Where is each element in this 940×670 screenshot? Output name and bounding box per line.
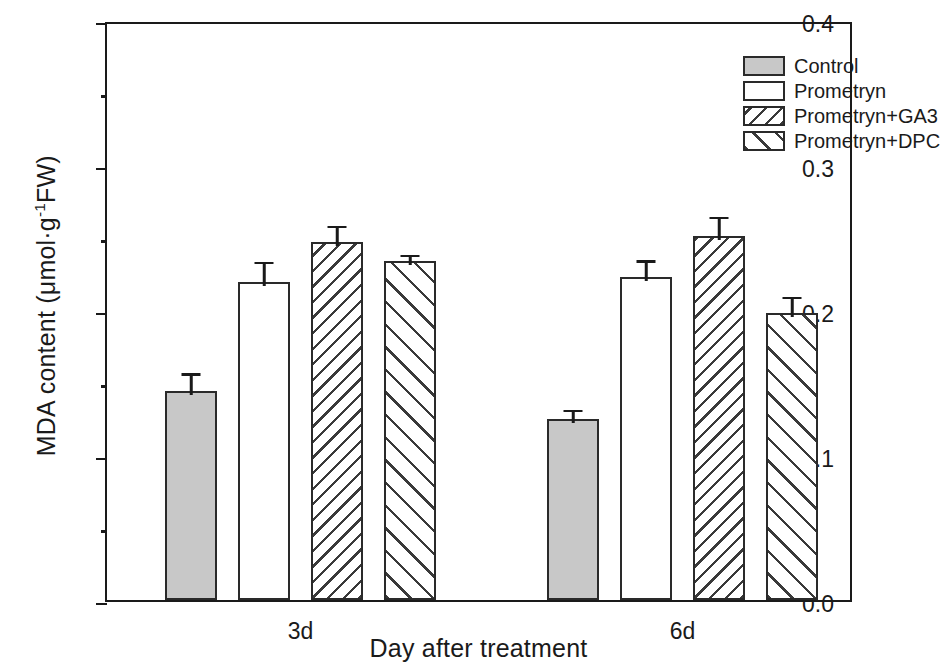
legend-swatch — [743, 81, 785, 101]
bar — [766, 313, 818, 600]
y-axis-major-tick — [96, 603, 107, 606]
error-bar-cap — [564, 410, 583, 413]
error-bar-stem — [718, 217, 721, 240]
error-bar-stem — [336, 226, 339, 246]
y-axis-minor-tick — [101, 240, 107, 243]
legend-label: Prometryn+DPC — [794, 131, 940, 151]
error-bar-stem — [791, 297, 794, 317]
y-axis-minor-tick — [101, 95, 107, 98]
y-axis-major-tick — [96, 313, 107, 316]
legend-label: Control — [794, 56, 858, 76]
bar — [311, 242, 363, 600]
error-bar-cap — [182, 373, 201, 376]
y-axis-major-tick — [96, 23, 107, 26]
y-axis-title-superscript: -1 — [31, 203, 48, 217]
legend-item: Prometryn+GA3 — [743, 103, 940, 128]
error-bar-cap — [710, 217, 729, 220]
legend-swatch — [743, 106, 785, 126]
y-axis-tick-label: 0.4 — [802, 11, 834, 38]
y-axis-minor-tick — [101, 530, 107, 533]
error-bar-cap — [401, 255, 420, 258]
y-axis-title-prefix: MDA content (μmol·g — [32, 217, 60, 456]
y-axis-major-tick — [96, 458, 107, 461]
bar — [165, 391, 217, 600]
error-bar-stem — [263, 262, 266, 287]
y-axis-tick-label: 0.3 — [802, 156, 834, 183]
legend-item: Prometryn — [743, 78, 940, 103]
legend-swatch — [743, 56, 785, 76]
legend-swatch — [743, 131, 785, 151]
error-bar-cap — [637, 260, 656, 263]
error-bar-cap — [328, 226, 347, 229]
error-bar-cap — [783, 297, 802, 300]
error-bar-stem — [190, 373, 193, 395]
legend-item: Prometryn+DPC — [743, 128, 940, 153]
bar — [620, 277, 672, 600]
bar — [693, 236, 745, 600]
x-axis-title: Day after treatment — [105, 634, 852, 663]
error-bar-cap — [255, 262, 274, 265]
bar — [238, 282, 290, 600]
y-axis-title-suffix: FW) — [32, 155, 60, 203]
legend-item: Control — [743, 53, 940, 78]
y-axis-minor-tick — [101, 385, 107, 388]
error-bar-stem — [645, 260, 648, 280]
legend: ControlPrometrynPrometryn+GA3Prometryn+D… — [743, 53, 940, 153]
bar — [384, 261, 436, 600]
bar — [547, 419, 599, 600]
y-axis-major-tick — [96, 168, 107, 171]
y-axis-title: MDA content (μmol·g-1FW) — [31, 16, 60, 596]
x-axis-group-label: 3d — [288, 618, 314, 645]
x-axis-group-label: 6d — [670, 618, 696, 645]
plot-area: 0.00.10.20.30.4 3d6d ControlPrometrynPro… — [105, 22, 852, 602]
legend-label: Prometryn+GA3 — [794, 106, 938, 126]
legend-label: Prometryn — [794, 81, 886, 101]
